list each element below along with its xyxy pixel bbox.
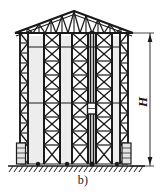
figure-caption: b) <box>0 173 166 188</box>
structural-drawing-figure: H b) <box>0 0 166 196</box>
lattice-column-2 <box>44 33 60 164</box>
lattice-frame-elevation-svg: H <box>0 0 166 196</box>
lattice-column-3 <box>72 33 88 164</box>
lattice-column-4 <box>96 33 112 164</box>
dimension-label-h: H <box>135 96 150 108</box>
ground-line <box>8 166 145 172</box>
svg-text:H: H <box>135 96 150 108</box>
roof-truss <box>15 11 133 36</box>
